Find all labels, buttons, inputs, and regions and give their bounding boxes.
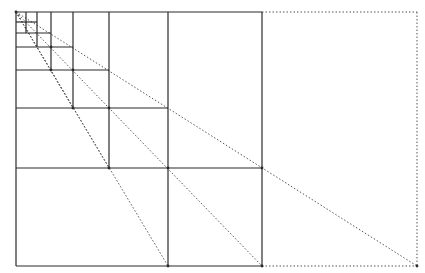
vertex-dot bbox=[72, 69, 75, 72]
diagonal-line bbox=[16, 12, 262, 266]
dotted-construction-lines bbox=[16, 12, 417, 266]
vertex-dot bbox=[261, 265, 264, 268]
vertex-dot bbox=[416, 265, 419, 268]
vertex-dot bbox=[50, 46, 53, 49]
vertex-dot bbox=[167, 265, 170, 268]
vertex-dot bbox=[261, 167, 264, 170]
vertex-dot bbox=[15, 11, 18, 14]
vertex-dot bbox=[108, 167, 111, 170]
diagonal-line bbox=[16, 12, 73, 108]
diagonal-line bbox=[16, 12, 417, 266]
vertex-dot bbox=[108, 107, 111, 110]
golden-rectangle-diagram bbox=[0, 0, 425, 273]
vertex-dot bbox=[72, 107, 75, 110]
diagonal-line bbox=[16, 12, 109, 168]
vertex-dots bbox=[15, 11, 419, 268]
vertex-dot bbox=[50, 69, 53, 72]
vertex-dot bbox=[167, 167, 170, 170]
